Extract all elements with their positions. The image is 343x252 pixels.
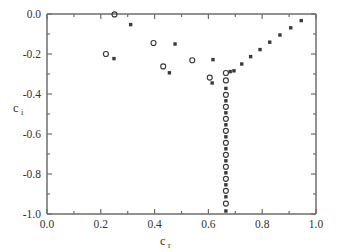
y-axis-title-text: c bbox=[13, 101, 19, 115]
data-point-filled-square bbox=[224, 111, 227, 114]
data-point-filled-square bbox=[129, 23, 132, 26]
data-point-open-circle bbox=[223, 78, 228, 83]
y-tick-label: -1.0 bbox=[23, 208, 41, 220]
y-tick-label: -0.6 bbox=[23, 128, 41, 140]
data-point-open-circle bbox=[223, 128, 228, 133]
data-point-open-circle bbox=[223, 188, 228, 193]
data-point-open-circle bbox=[161, 64, 166, 69]
data-point-filled-square bbox=[232, 69, 235, 72]
tick-labels: 0.00.20.40.60.81.00.0-0.2-0.4-0.6-0.8-1.… bbox=[23, 8, 324, 230]
y-axis-title: c i bbox=[13, 101, 24, 117]
data-point-filled-square bbox=[228, 70, 231, 73]
data-point-filled-square bbox=[289, 26, 292, 29]
data-point-filled-square bbox=[168, 71, 171, 74]
data-point-filled-square bbox=[300, 19, 303, 22]
data-point-open-circle bbox=[207, 75, 212, 80]
data-point-filled-square bbox=[224, 171, 227, 174]
data-point-filled-square bbox=[278, 33, 281, 36]
x-tick-label: 0.4 bbox=[147, 218, 162, 230]
x-tick-label: 0.6 bbox=[201, 218, 216, 230]
data-point-open-circle bbox=[223, 92, 228, 97]
data-point-open-circle bbox=[151, 41, 156, 46]
data-point-open-circle bbox=[223, 152, 228, 157]
x-tick-label: 0.0 bbox=[40, 218, 55, 230]
y-tick-label: -0.4 bbox=[23, 88, 41, 100]
data-point-open-circle bbox=[103, 52, 108, 57]
data-point-filled-square bbox=[240, 62, 243, 65]
data-point-filled-square bbox=[224, 209, 227, 212]
data-point-filled-square bbox=[224, 147, 227, 150]
data-point-filled-square bbox=[224, 183, 227, 186]
data-point-open-circle bbox=[190, 58, 195, 63]
x-tick-label: 0.8 bbox=[255, 218, 270, 230]
data-point-open-circle bbox=[223, 201, 228, 206]
data-point-open-circle bbox=[223, 116, 228, 121]
data-point-filled-square bbox=[224, 159, 227, 162]
data-point-filled-square bbox=[224, 123, 227, 126]
plot-canvas: 0.00.20.40.60.81.00.0-0.2-0.4-0.6-0.8-1.… bbox=[0, 0, 343, 252]
y-tick-label: -0.8 bbox=[23, 168, 41, 180]
data-point-filled-square bbox=[249, 55, 252, 58]
axis-spines bbox=[47, 14, 316, 214]
data-point-open-circle bbox=[223, 71, 228, 76]
tick-marks bbox=[47, 14, 316, 214]
data-point-filled-square bbox=[268, 41, 271, 44]
y-axis-title-subscript: i bbox=[21, 107, 24, 117]
data-points bbox=[103, 12, 302, 213]
data-point-filled-square bbox=[210, 81, 213, 84]
data-point-open-circle bbox=[223, 140, 228, 145]
data-point-open-circle bbox=[223, 176, 228, 181]
data-point-filled-square bbox=[224, 99, 227, 102]
data-point-filled-square bbox=[224, 87, 227, 90]
y-tick-label: -0.2 bbox=[23, 48, 41, 60]
data-point-open-circle bbox=[223, 104, 228, 109]
x-axis-title: c r bbox=[160, 234, 171, 250]
data-point-filled-square bbox=[173, 42, 176, 45]
data-point-filled-square bbox=[211, 58, 214, 61]
data-point-filled-square bbox=[112, 57, 115, 60]
x-tick-label: 1.0 bbox=[309, 218, 324, 230]
data-point-filled-square bbox=[258, 48, 261, 51]
data-point-open-circle bbox=[223, 164, 228, 169]
x-axis-title-text: c bbox=[160, 234, 166, 248]
x-tick-label: 0.2 bbox=[94, 218, 109, 230]
y-tick-label: 0.0 bbox=[27, 8, 42, 20]
data-point-filled-square bbox=[224, 195, 227, 198]
x-axis-title-subscript: r bbox=[168, 240, 171, 250]
eigenvalue-scatter-figure: 0.00.20.40.60.81.00.0-0.2-0.4-0.6-0.8-1.… bbox=[0, 0, 343, 252]
data-point-filled-square bbox=[224, 135, 227, 138]
